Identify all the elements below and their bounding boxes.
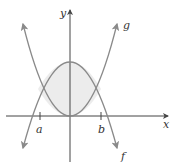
curve-label-f: f xyxy=(120,150,127,163)
graph: y x a b g f xyxy=(0,0,172,164)
tick-label-b: b xyxy=(98,123,105,136)
curve-label-g: g xyxy=(123,19,130,32)
x-axis-label: x xyxy=(163,118,170,131)
tick-label-a: a xyxy=(36,123,43,136)
y-axis-label: y xyxy=(59,7,67,20)
